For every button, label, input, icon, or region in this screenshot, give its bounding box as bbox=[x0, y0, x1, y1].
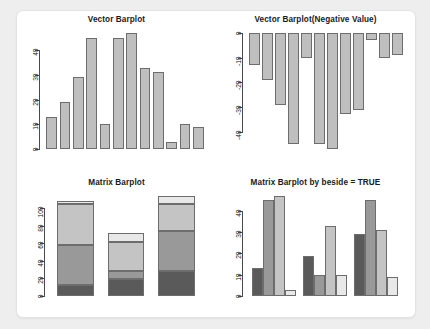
bar bbox=[274, 196, 285, 296]
bar bbox=[180, 124, 191, 149]
y-axis-line bbox=[44, 208, 45, 296]
bar-segment bbox=[158, 271, 194, 296]
y-axis-tick-label: 10 bbox=[235, 273, 242, 291]
bar bbox=[340, 33, 351, 114]
bar bbox=[153, 72, 164, 149]
y-axis-tick-label: 40 bbox=[37, 259, 44, 277]
bar bbox=[314, 33, 325, 144]
bar-segment bbox=[158, 196, 194, 204]
bar bbox=[354, 234, 365, 296]
bar bbox=[73, 77, 84, 149]
bar bbox=[60, 102, 71, 149]
bar-segment bbox=[108, 242, 144, 271]
bar-segment bbox=[108, 271, 144, 280]
y-axis-tick-label: 20 bbox=[32, 98, 39, 116]
y-axis-tick-label: 40 bbox=[32, 49, 39, 67]
y-axis-tick-label: 30 bbox=[235, 231, 242, 249]
bar bbox=[301, 33, 312, 58]
panel-vector-barplot-negative: Vector Barplot(Negative Value) 0-10-20-3… bbox=[216, 11, 415, 164]
y-axis-tick-label: 0 bbox=[235, 32, 242, 50]
bar bbox=[387, 277, 398, 296]
panel-vector-barplot: Vector Barplot 010203040 bbox=[17, 11, 216, 164]
panel-matrix-barplot-beside: Matrix Barplot by beside = TRUE 01020304… bbox=[216, 164, 415, 317]
bar bbox=[166, 142, 177, 149]
panel-title: Vector Barplot bbox=[17, 15, 216, 24]
bar-segment bbox=[108, 279, 144, 296]
plot-area-matrix-barplot-beside: 010203040 bbox=[248, 196, 402, 296]
bar bbox=[140, 68, 151, 149]
y-axis-tick-label: -30 bbox=[235, 106, 242, 124]
bar bbox=[263, 200, 274, 296]
bar-segment bbox=[57, 285, 93, 296]
bar bbox=[46, 117, 57, 149]
bar bbox=[288, 33, 299, 144]
plot-area-matrix-barplot: 020406080100 bbox=[50, 196, 202, 296]
bar bbox=[366, 33, 377, 40]
figure-card: Vector Barplot 010203040 Vector Barplot(… bbox=[16, 10, 416, 318]
plot-area-vector-barplot: 010203040 bbox=[45, 33, 205, 149]
bar bbox=[365, 200, 376, 296]
bar-segment bbox=[158, 204, 194, 231]
y-axis-tick-label: 20 bbox=[235, 252, 242, 270]
y-axis-tick-label: 0 bbox=[37, 295, 44, 313]
y-axis-tick-label: 40 bbox=[235, 209, 242, 227]
y-axis-tick-label: -40 bbox=[235, 130, 242, 148]
y-axis-tick-label: 60 bbox=[37, 242, 44, 260]
bar bbox=[379, 33, 390, 58]
y-axis-tick-label: 100 bbox=[37, 207, 44, 225]
y-axis-tick-label: 30 bbox=[32, 73, 39, 91]
bar bbox=[327, 33, 338, 149]
panel-matrix-barplot: Matrix Barplot 020406080100 bbox=[17, 164, 216, 317]
bar bbox=[249, 33, 260, 65]
bar bbox=[314, 275, 325, 296]
bar bbox=[100, 124, 111, 149]
y-axis-tick-label: 80 bbox=[37, 224, 44, 242]
y-axis-tick-label: 20 bbox=[37, 277, 44, 295]
bar bbox=[193, 127, 204, 149]
bar bbox=[392, 33, 403, 55]
bar bbox=[353, 33, 364, 110]
bar bbox=[86, 38, 97, 149]
panel-title: Matrix Barplot bbox=[17, 178, 216, 187]
bar bbox=[303, 256, 314, 296]
bar-segment bbox=[57, 201, 93, 204]
panel-title: Vector Barplot(Negative Value) bbox=[216, 15, 415, 24]
bar bbox=[252, 268, 263, 296]
bar bbox=[275, 33, 286, 105]
bar bbox=[336, 275, 347, 296]
bar-segment bbox=[57, 204, 93, 245]
plot-area-vector-barplot-negative: 0-10-20-30-40 bbox=[248, 33, 404, 149]
y-axis-tick-label: -20 bbox=[235, 81, 242, 99]
bar-segment bbox=[57, 245, 93, 284]
panel-title: Matrix Barplot by beside = TRUE bbox=[216, 178, 415, 187]
bar-segment bbox=[158, 231, 194, 270]
y-axis-tick-label: -10 bbox=[235, 56, 242, 74]
bar bbox=[113, 38, 124, 149]
bar bbox=[376, 230, 387, 296]
bar-segment bbox=[108, 233, 144, 242]
y-axis-tick-label: 0 bbox=[32, 148, 39, 166]
bar bbox=[325, 226, 336, 296]
bar bbox=[285, 290, 296, 296]
y-axis-tick-label: 0 bbox=[235, 295, 242, 313]
bar bbox=[262, 33, 273, 80]
bar bbox=[126, 33, 137, 149]
y-axis-tick-label: 10 bbox=[32, 123, 39, 141]
